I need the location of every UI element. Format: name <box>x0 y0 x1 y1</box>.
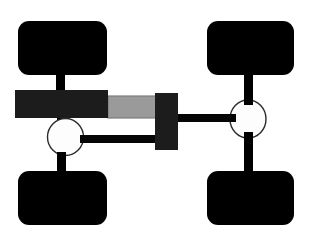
hub-left <box>48 119 84 156</box>
gray-slider-bar <box>108 96 160 118</box>
stub-hub-left-right <box>80 135 88 143</box>
stem-rear-right <box>244 136 253 172</box>
drag-link-right <box>172 114 234 122</box>
stem-front-left <box>56 74 65 91</box>
wheel-rear-left <box>18 171 107 225</box>
stub-hub-right-bottom <box>244 132 253 141</box>
stub-hub-left-bottom <box>57 152 66 161</box>
diagram-canvas <box>0 0 311 239</box>
wheel-front-right <box>207 21 294 75</box>
main-beam <box>15 90 108 118</box>
wheel-front-left <box>18 21 107 75</box>
stub-hub-right-left <box>228 114 236 122</box>
stub-hub-right-top <box>244 96 253 105</box>
wheel-rear-right <box>207 171 294 225</box>
steering-linkage-diagram <box>0 0 311 239</box>
upright-block <box>155 93 178 150</box>
